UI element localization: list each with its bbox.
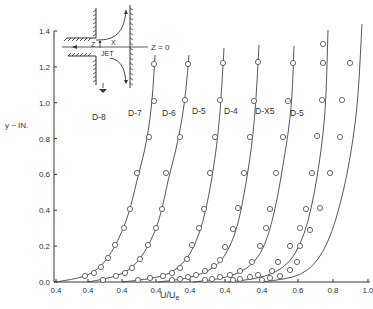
data-point <box>290 60 295 65</box>
x-tick-label: 1.0 <box>362 286 373 295</box>
x-tick-label: 0.6 <box>292 286 304 295</box>
curve-label: D-5 <box>192 106 206 116</box>
curve-label: D-7 <box>128 108 142 118</box>
y-tick-label: 0.0 <box>39 278 51 287</box>
data-point <box>184 256 189 261</box>
data-point <box>297 243 302 248</box>
data-point <box>137 256 142 261</box>
inset-z-label: Z <box>91 41 96 48</box>
data-point <box>237 276 242 281</box>
data-point <box>227 272 232 277</box>
data-point <box>113 273 118 278</box>
data-point <box>169 270 174 275</box>
data-point <box>327 170 332 175</box>
data-point <box>249 259 254 264</box>
data-point <box>91 270 96 275</box>
profile-curve <box>228 30 328 282</box>
data-point <box>145 242 150 247</box>
curve-label: D-6 <box>162 108 176 118</box>
data-point <box>196 225 201 230</box>
data-point <box>211 263 216 268</box>
y-tick-label: 0.8 <box>39 135 51 144</box>
curve-label: D-4 <box>224 106 238 116</box>
data-point <box>314 133 319 138</box>
data-point <box>273 170 278 175</box>
data-point <box>287 243 292 248</box>
data-point <box>247 134 252 139</box>
data-point <box>275 259 280 264</box>
data-point <box>222 244 227 249</box>
curve-labels: D-8D-7D-6D-5D-4D-X5D-5 <box>92 106 304 122</box>
data-point <box>135 277 140 282</box>
data-point <box>220 60 225 65</box>
data-point <box>235 205 240 210</box>
data-point <box>294 259 299 264</box>
axes: 0.00.20.40.60.81.01.21.40.40.40.40.40.40… <box>39 27 373 295</box>
data-point <box>177 134 182 139</box>
data-point <box>307 227 312 232</box>
data-point <box>207 170 212 175</box>
data-point <box>185 274 190 279</box>
data-point <box>153 225 158 230</box>
inset-z0-label: Z = 0 <box>151 43 170 52</box>
data-point <box>257 243 262 248</box>
data-point <box>146 134 151 139</box>
data-point <box>82 273 87 278</box>
data-point <box>247 274 252 279</box>
data-point <box>209 276 214 281</box>
x-tick-label: 0.4 <box>256 286 268 295</box>
data-point <box>319 97 324 102</box>
data-point <box>129 265 134 270</box>
data-point <box>251 98 256 103</box>
y-tick-label: 0.6 <box>39 170 51 179</box>
x-tick-label: 0.4 <box>184 286 196 295</box>
data-point <box>255 59 260 64</box>
data-point <box>212 134 217 139</box>
data-point <box>189 242 194 247</box>
chart-svg: Z X JET Z = 0 0.00.20.40.60.81.01.21.40.… <box>0 0 373 309</box>
data-point <box>193 272 198 277</box>
data-point <box>105 255 110 260</box>
y-axis-label: y ~ IN. <box>5 121 28 130</box>
data-point <box>127 206 132 211</box>
data-point <box>269 268 274 273</box>
data-point <box>201 206 206 211</box>
data-point <box>98 264 103 269</box>
x-tick-label: 0.4 <box>82 286 94 295</box>
data-point <box>217 97 222 102</box>
data-point <box>267 275 272 280</box>
data-point <box>309 170 314 175</box>
y-tick-label: 1.4 <box>39 27 51 36</box>
data-point <box>255 272 260 277</box>
series-d-x5 <box>228 30 328 283</box>
data-point <box>259 277 264 282</box>
data-point <box>100 277 105 282</box>
profile-curve <box>193 46 294 282</box>
data-point <box>217 257 222 262</box>
x-axis-label: U/Ue <box>160 290 180 301</box>
curve-label: D-5 <box>290 108 304 118</box>
data-point <box>339 97 344 102</box>
data-point <box>134 170 139 175</box>
curve-label: D-X5 <box>255 106 275 116</box>
data-point <box>202 277 207 282</box>
data-point <box>230 226 235 231</box>
y-tick-label: 0.2 <box>39 242 51 251</box>
curve-label: D-8 <box>92 112 106 122</box>
y-tick-label: 0.4 <box>39 206 51 215</box>
data-point <box>177 276 182 281</box>
profile-curve <box>158 45 259 282</box>
data-point <box>280 134 285 139</box>
series-d-5 <box>158 45 261 283</box>
y-tick-label: 1.0 <box>39 99 51 108</box>
series-d-5 <box>259 24 362 283</box>
x-tick-label: 0.8 <box>327 286 339 295</box>
data-point <box>151 98 156 103</box>
series-d-4 <box>193 46 296 283</box>
data-point <box>122 270 127 275</box>
data-point <box>297 225 302 230</box>
data-point <box>317 205 322 210</box>
x-tick-label: 0.4 <box>219 286 231 295</box>
profile-curve <box>122 48 224 282</box>
data-point <box>185 61 190 66</box>
